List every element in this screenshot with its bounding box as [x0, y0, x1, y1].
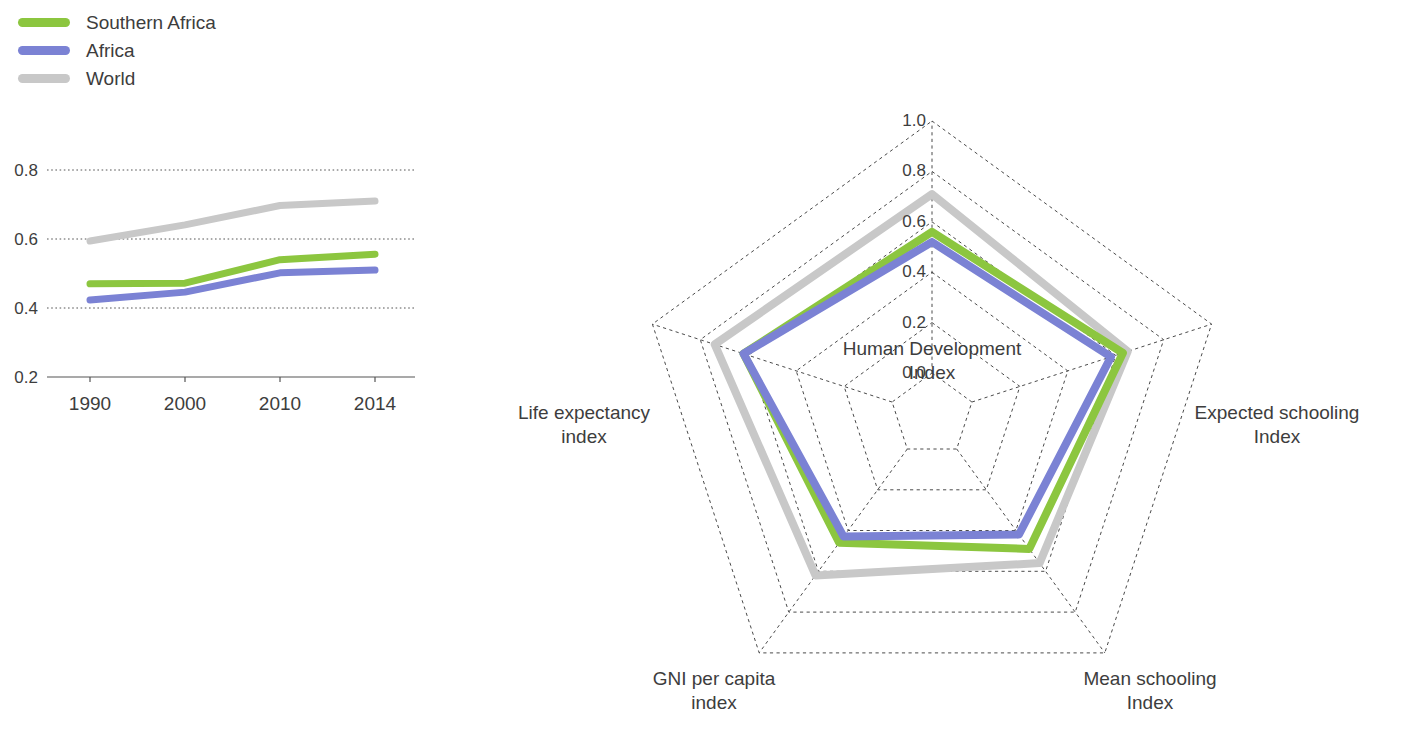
- legend-swatch-world: [18, 74, 70, 83]
- legend-label-world: World: [86, 69, 135, 88]
- legend-label-africa: Africa: [86, 41, 135, 60]
- radar-axis-label-life-expectancy-index: Life expectancy index: [479, 401, 689, 449]
- line-chart-x-tick: 2000: [150, 394, 220, 413]
- radar-axis-label-gni-per-capita-index: GNI per capita index: [609, 667, 819, 715]
- radar-radial-tick: 0.6: [882, 213, 926, 230]
- line-series-world: [90, 201, 375, 241]
- radar-radial-tick: 1.0: [882, 112, 926, 129]
- line-chart-x-tick: 2014: [340, 394, 410, 413]
- legend-swatch-southern-africa: [18, 18, 70, 27]
- legend-swatch-africa: [18, 46, 70, 55]
- legend-item-africa: Africa: [18, 36, 216, 64]
- legend-label-southern-africa: Southern Africa: [86, 13, 216, 32]
- radar-axis-label-human-development-index: Human Development Index: [817, 337, 1047, 385]
- radar-spoke: [759, 449, 907, 653]
- radar-radial-tick: 0.4: [882, 263, 926, 280]
- radar-axis-label-mean-schooling-index: Mean schooling Index: [1045, 667, 1255, 715]
- line-chart-y-tick: 0.4: [0, 300, 38, 317]
- line-chart-x-tick: 1990: [55, 394, 125, 413]
- line-chart-y-tick: 0.6: [0, 231, 38, 248]
- legend-item-world: World: [18, 64, 216, 92]
- line-chart-canvas: [0, 150, 440, 420]
- chart-legend: Southern Africa Africa World: [18, 8, 216, 92]
- radar-radial-tick: 0.8: [882, 162, 926, 179]
- line-chart-x-tick: 2010: [245, 394, 315, 413]
- legend-item-southern-africa: Southern Africa: [18, 8, 216, 36]
- radar-axis-label-expected-schooling-index: Expected schooling Index: [1162, 401, 1392, 449]
- figure-root: Southern Africa Africa World 0.20.40.60.…: [0, 0, 1407, 735]
- radar-radial-tick: 0.2: [882, 314, 926, 331]
- radar-chart: 0.00.20.40.60.81.0 Human Development Ind…: [500, 0, 1407, 735]
- line-chart-y-tick: 0.8: [0, 162, 38, 179]
- line-chart: 0.20.40.60.8 1990200020102014: [0, 150, 440, 420]
- line-chart-y-tick: 0.2: [0, 369, 38, 386]
